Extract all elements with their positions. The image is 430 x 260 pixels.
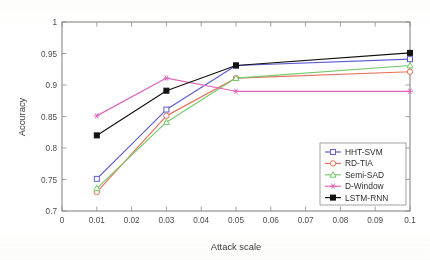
y-tick-label: 0.7: [46, 207, 58, 216]
data-point-marker: [163, 119, 169, 124]
series-line: [97, 78, 410, 116]
x-tick-label: 0.03: [158, 216, 174, 225]
series-lstm-rnn: [94, 50, 412, 138]
data-point-marker: [331, 195, 336, 200]
x-tick-label: 0.05: [228, 216, 244, 225]
x-tick-label: 0.1: [404, 216, 416, 225]
x-tick-label: 0.01: [89, 216, 105, 225]
series-d-window: [94, 75, 413, 118]
data-point-marker: [408, 50, 413, 55]
chart-legend[interactable]: HHT-SVMRD-TIASemi-SADD-WindowLSTM-RNN: [320, 143, 406, 205]
data-point-marker: [164, 88, 169, 93]
data-point-marker: [234, 63, 239, 68]
data-point-marker: [164, 113, 169, 118]
y-tick-label: 0.9: [46, 81, 58, 90]
data-point-marker: [233, 89, 239, 94]
accuracy-vs-attack-scale-chart: 0.70.750.80.850.90.951 00.010.020.030.04…: [0, 0, 430, 260]
y-tick-label: 1: [52, 18, 57, 27]
data-point-marker: [330, 161, 335, 166]
y-axis-title: Accuracy: [16, 97, 27, 136]
x-axis-title: Attack scale: [211, 241, 262, 252]
x-tick-label: 0.08: [332, 216, 348, 225]
data-point-marker: [94, 176, 99, 181]
legend-label: Semi-SAD: [345, 170, 384, 180]
data-point-marker: [407, 69, 412, 74]
y-tick-label: 0.95: [41, 50, 57, 59]
legend-label: LSTM-RNN: [345, 193, 388, 203]
legend-label: RD-TIA: [345, 158, 373, 168]
data-point-marker: [94, 113, 100, 118]
y-tick-label: 0.8: [46, 144, 58, 153]
data-point-marker: [163, 75, 169, 80]
x-tick-label: 0.09: [367, 216, 383, 225]
legend-label: HHT-SVM: [345, 147, 383, 157]
y-tick-label: 0.75: [41, 176, 57, 185]
data-point-marker: [164, 107, 169, 112]
x-tick-label: 0.02: [124, 216, 140, 225]
data-point-marker: [408, 57, 413, 62]
legend-label: D-Window: [345, 181, 385, 191]
x-tick-label: 0.06: [263, 216, 279, 225]
data-point-marker: [94, 133, 99, 138]
data-point-marker: [331, 150, 336, 155]
y-tick-label: 0.85: [41, 113, 57, 122]
x-tick-label: 0.07: [298, 216, 314, 225]
x-tick-label: 0.04: [193, 216, 209, 225]
figure-canvas: 0.70.750.80.850.90.951 00.010.020.030.04…: [0, 0, 430, 260]
x-tick-label: 0: [60, 216, 65, 225]
